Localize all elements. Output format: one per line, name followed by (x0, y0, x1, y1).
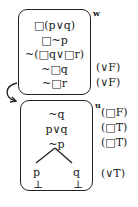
u-line-3: ~p (21, 138, 92, 151)
w-line-4: ~□q (19, 63, 90, 76)
u-annot-3: (□T) (101, 136, 127, 149)
w-line-1: □(p∨q) (19, 19, 90, 32)
w-line-3: ~(□q∨□r) (19, 48, 90, 61)
u-branch-annot: (∨T) (101, 167, 125, 180)
u-line-2: p∨q (21, 123, 92, 136)
w-line-5: ~□r (19, 77, 90, 90)
world-u-box: ~q p∨q ~p p ⊥ q ⊥ (20, 100, 93, 191)
world-u-label: u (95, 100, 101, 110)
branch-right-closed: ⊥ (73, 178, 83, 191)
branch-left-closed: ⊥ (33, 178, 43, 191)
world-w-box: □(p∨q) □~p ~(□q∨□r) ~□q ~□r (18, 9, 91, 95)
accessibility-arrow (7, 83, 17, 101)
w-annot-4: (∨F) (96, 61, 120, 74)
u-annot-1: (□F) (101, 106, 128, 119)
world-w-label: w (93, 8, 100, 18)
w-line-2: □~p (19, 34, 90, 47)
u-annot-2: (□T) (101, 121, 127, 134)
w-annot-5: (∨F) (96, 76, 120, 89)
u-line-1: ~q (21, 108, 92, 121)
